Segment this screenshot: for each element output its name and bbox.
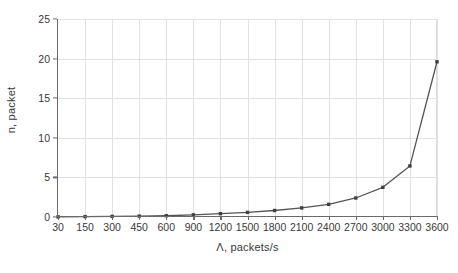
series-markers bbox=[56, 60, 438, 218]
y-axis-tick-label-group: 0510152025 bbox=[22, 19, 54, 217]
x-axis-tick-mark bbox=[383, 217, 384, 220]
x-axis-tick-mark bbox=[85, 217, 86, 220]
data-point-marker bbox=[246, 211, 249, 214]
x-axis-tick-mark bbox=[329, 217, 330, 220]
x-axis-tick-label: 900 bbox=[185, 221, 203, 233]
y-axis-tick-label: 15 bbox=[38, 92, 50, 104]
data-point-marker bbox=[273, 209, 276, 212]
x-axis-tick-mark bbox=[356, 217, 357, 220]
data-point-marker bbox=[435, 60, 438, 63]
x-axis-tick-label: 150 bbox=[76, 221, 94, 233]
x-axis-tick-mark bbox=[193, 217, 194, 220]
x-axis-tick-label: 3000 bbox=[371, 221, 394, 233]
x-axis-tick-mark bbox=[58, 217, 59, 220]
x-axis-tick-mark bbox=[302, 217, 303, 220]
y-axis-tick-mark bbox=[53, 137, 57, 138]
y-axis-tick-mark bbox=[53, 177, 57, 178]
y-axis-tick-label: 5 bbox=[44, 171, 50, 183]
y-axis-title: n, packet bbox=[0, 0, 22, 220]
y-axis-title-text: n, packet bbox=[5, 87, 17, 133]
y-axis-tick-label: 20 bbox=[38, 53, 50, 65]
y-axis-tick-label: 25 bbox=[38, 13, 50, 25]
plot-area bbox=[58, 19, 437, 217]
x-axis-tick-label: 1200 bbox=[209, 221, 232, 233]
chart-container: n, packet 0510152025 3015030045060090012… bbox=[0, 0, 458, 273]
data-point-marker bbox=[354, 196, 357, 199]
data-point-marker bbox=[300, 206, 303, 209]
y-axis-tick-mark bbox=[53, 18, 57, 19]
y-axis-tick-label: 10 bbox=[38, 132, 50, 144]
x-axis-tick-label-group: 3015030045060090012001500180021002400270… bbox=[0, 221, 458, 237]
x-axis-tick-mark bbox=[410, 217, 411, 220]
x-axis-tick-mark bbox=[220, 217, 221, 220]
y-axis-line bbox=[57, 19, 58, 217]
x-axis-tick-mark bbox=[166, 217, 167, 220]
y-axis-tick-mark bbox=[53, 98, 57, 99]
y-axis-tick-mark bbox=[53, 216, 57, 217]
x-axis-title: Λ, packets/s bbox=[58, 241, 437, 253]
x-axis-tick-label: 3300 bbox=[398, 221, 421, 233]
x-axis-tick-label: 1500 bbox=[236, 221, 259, 233]
x-axis-tick-label: 1800 bbox=[263, 221, 286, 233]
x-axis-tick-mark bbox=[437, 217, 438, 220]
x-axis-tick-label: 600 bbox=[158, 221, 176, 233]
x-axis-tick-label: 2700 bbox=[344, 221, 367, 233]
x-axis-tick-label: 2400 bbox=[317, 221, 340, 233]
x-axis-tick-label: 2100 bbox=[290, 221, 313, 233]
data-point-marker bbox=[408, 164, 411, 167]
x-axis-tick-mark bbox=[112, 217, 113, 220]
series-polyline bbox=[58, 62, 437, 217]
x-axis-tick-label: 30 bbox=[52, 221, 64, 233]
x-axis-tick-label: 450 bbox=[130, 221, 148, 233]
y-axis-tick-mark bbox=[53, 58, 57, 59]
x-axis-tick-label: 3600 bbox=[425, 221, 448, 233]
x-axis-tick-mark bbox=[248, 217, 249, 220]
data-point-marker bbox=[327, 203, 330, 206]
x-axis-tick-mark bbox=[275, 217, 276, 220]
x-axis-tick-label: 300 bbox=[103, 221, 121, 233]
gridline-vertical bbox=[437, 19, 438, 217]
data-point-marker bbox=[381, 186, 384, 189]
series-line-n bbox=[58, 19, 437, 217]
data-point-marker bbox=[219, 212, 222, 215]
x-axis-tick-mark bbox=[139, 217, 140, 220]
